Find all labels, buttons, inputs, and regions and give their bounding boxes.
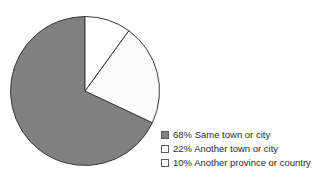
legend-item-label: 68% Same town or city: [173, 128, 270, 142]
legend-item-label: 10% Another province or country: [173, 156, 311, 170]
chart-canvas: 68% Same town or city 22% Another town o…: [0, 0, 323, 184]
legend-item-same-town-or-city[interactable]: 68% Same town or city: [161, 128, 323, 142]
pie-chart-svg: [9, 15, 161, 167]
pie-chart: [9, 15, 161, 167]
pie-slices: [11, 17, 160, 166]
legend-swatch-icon: [161, 145, 169, 153]
legend-item-another-town-or-city[interactable]: 22% Another town or city: [161, 142, 323, 156]
chart-legend: 68% Same town or city 22% Another town o…: [161, 128, 323, 170]
legend-item-label: 22% Another town or city: [173, 142, 278, 156]
legend-swatch-icon: [161, 159, 169, 167]
legend-swatch-icon: [161, 131, 169, 139]
legend-item-another-province-or-country[interactable]: 10% Another province or country: [161, 156, 323, 170]
